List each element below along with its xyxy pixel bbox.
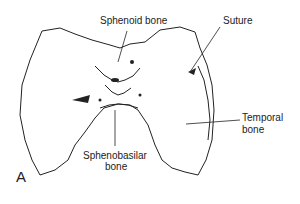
label-temporal-bone-1: Temporal: [242, 112, 283, 123]
label-sphenoid-bone: Sphenoid bone: [100, 15, 167, 26]
skull-base-illustration: [0, 0, 300, 204]
panel-label: A: [16, 168, 26, 185]
label-temporal-bone-2: bone: [242, 124, 264, 135]
label-suture: Suture: [223, 15, 252, 26]
label-sphenobasilar-1: Sphenobasilar: [83, 150, 147, 161]
label-sphenobasilar-2: bone: [105, 161, 127, 172]
